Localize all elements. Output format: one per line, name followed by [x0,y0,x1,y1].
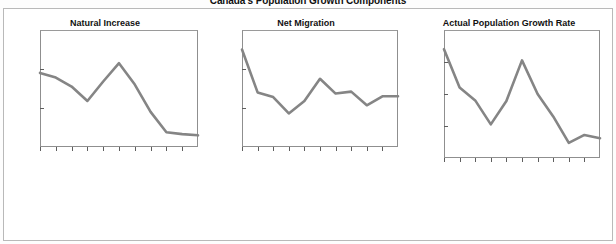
x-axis-tick-label [497,164,524,196]
figure-container: Canada's Population Growth Components Na… [0,0,616,244]
x-axis-tick-label [435,164,462,196]
series-line [242,30,398,147]
x-axis-tick-mark [444,158,445,162]
x-axis-tick-mark [273,147,274,151]
x-axis-tick-mark [289,147,290,151]
x-axis-tick-mark [336,147,337,151]
x-axis-tick-label [295,153,322,185]
x-axis-tick-label [559,164,586,196]
x-axis-tick-mark [491,158,492,162]
x-axis-tick-label [528,164,555,196]
x-axis-tick-label [94,153,121,185]
x-axis-tick-label [141,153,168,185]
x-axis-tick-label [342,153,369,185]
panel-natural-increase: Natural Increase [4,8,206,241]
x-axis-tick-mark [119,147,120,151]
x-axis-tick-mark [166,147,167,151]
x-axis-tick-mark [506,158,507,162]
x-axis-tick-label [217,153,244,185]
x-axis-tick-mark [475,158,476,162]
x-axis-tick-label [544,164,571,196]
x-axis-tick-label [264,153,291,185]
x-axis-tick-label [481,164,508,196]
x-axis-tick-mark [87,147,88,151]
x-axis-tick-label [15,153,42,185]
panel-title: Net Migration [206,18,406,28]
x-axis-tick-label [357,153,384,185]
x-axis-tick-mark [135,147,136,151]
x-axis-tick-label [78,153,105,185]
x-axis-tick-mark [382,147,383,151]
x-axis-tick-mark [569,158,570,162]
x-axis-tick-label [62,153,89,185]
x-axis-tick-mark [584,158,585,162]
x-axis-tick-mark [151,147,152,151]
x-axis-tick-label [31,153,58,185]
x-axis-tick-mark [460,158,461,162]
x-axis-tick-label [326,153,353,185]
figure-title: Canada's Population Growth Components [0,0,616,6]
series-line [40,30,198,147]
x-axis-tick-mark [103,147,104,151]
x-axis-tick-label [450,164,477,196]
x-axis-tick-label [47,153,74,185]
x-axis-tick-mark [40,147,41,151]
x-axis-tick-mark [553,158,554,162]
x-axis-tick-mark [182,147,183,151]
panel-actual-growth-rate: Actual Population Growth Rate [406,8,612,241]
x-axis-tick-mark [56,147,57,151]
x-axis-tick-label [110,153,137,185]
x-axis-tick-mark [351,147,352,151]
x-axis-tick-label [126,153,153,185]
panel-net-migration: Net Migration [206,8,406,241]
x-axis-tick-label [513,164,540,196]
x-axis-tick-label [419,164,446,196]
x-axis-tick-mark [72,147,73,151]
x-axis-tick-mark [320,147,321,151]
x-axis-tick-mark [304,147,305,151]
panel-title: Natural Increase [4,18,206,28]
panel-title: Actual Population Growth Rate [406,18,612,28]
x-axis-tick-label [233,153,260,185]
x-axis-tick-label [157,153,184,185]
x-axis-tick-mark [522,158,523,162]
x-axis-tick-label [279,153,306,185]
x-axis-tick-label [248,153,275,185]
x-axis-tick-mark [258,147,259,151]
x-axis-tick-mark [367,147,368,151]
x-axis-tick-label [311,153,338,185]
x-axis-tick-label [466,164,493,196]
series-line [444,30,600,158]
x-axis-tick-mark [538,158,539,162]
x-axis-tick-mark [242,147,243,151]
